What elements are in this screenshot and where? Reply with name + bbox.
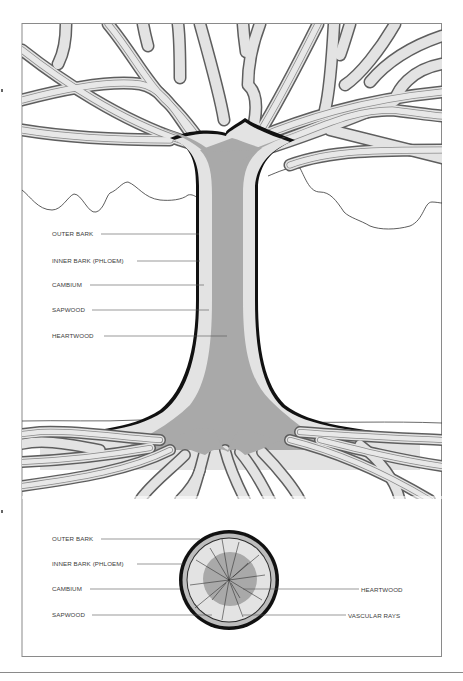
label-heartwood: HEARTWOOD bbox=[52, 332, 94, 340]
section-label-outer-bark: OUTER BARK bbox=[52, 535, 93, 543]
label-cambium: CAMBIUM bbox=[52, 281, 82, 289]
section-label-heartwood: HEARTWOOD bbox=[361, 586, 403, 594]
margin-mark bbox=[1, 510, 3, 513]
tree-anatomy-diagram: OUTER BARK INNER BARK (PHLOEM) CAMBIUM S… bbox=[0, 0, 463, 681]
tree-illustration bbox=[0, 0, 463, 681]
hill-line-right bbox=[268, 168, 442, 229]
section-label-inner-bark-phloem: INNER BARK (PHLOEM) bbox=[52, 560, 124, 568]
hill-line-left bbox=[22, 182, 198, 212]
label-inner-bark-phloem: INNER BARK (PHLOEM) bbox=[52, 257, 124, 265]
section-label-vascular-rays: VASCULAR RAYS bbox=[348, 612, 400, 620]
section-label-sapwood: SAPWOOD bbox=[52, 611, 85, 619]
trunk-heartwood bbox=[120, 138, 340, 450]
label-outer-bark: OUTER BARK bbox=[52, 230, 93, 238]
margin-mark bbox=[1, 89, 3, 92]
section-label-cambium: CAMBIUM bbox=[52, 585, 82, 593]
label-sapwood: SAPWOOD bbox=[52, 306, 85, 314]
ground-line bbox=[22, 420, 150, 421]
